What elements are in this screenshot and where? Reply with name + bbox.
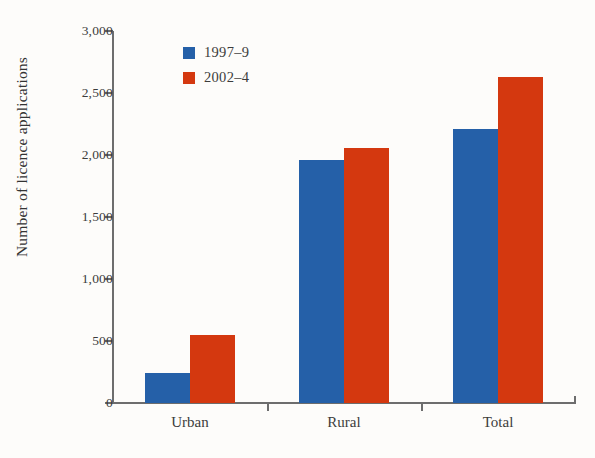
legend-swatch-icon bbox=[183, 72, 195, 84]
bar-urban-1997-9 bbox=[145, 373, 190, 403]
y-axis-tick-label: 2,500 bbox=[51, 85, 113, 101]
y-axis-tick-label: 500 bbox=[51, 333, 113, 349]
legend-item: 1997–9 bbox=[183, 40, 249, 65]
x-axis-label-rural: Rural bbox=[274, 414, 414, 431]
x-axis-label-total: Total bbox=[428, 414, 568, 431]
y-axis-tick-label: 3,000 bbox=[51, 23, 113, 39]
y-axis-tick-label: 1,500 bbox=[51, 209, 113, 225]
legend-label: 2002–4 bbox=[204, 69, 249, 86]
y-axis-title: Number of licence applications bbox=[13, 0, 31, 357]
bar-rural-1997-9 bbox=[299, 160, 344, 403]
bar-total-1997-9 bbox=[453, 129, 498, 403]
legend-label: 1997–9 bbox=[204, 44, 249, 61]
bar-rural-2002-4 bbox=[344, 148, 389, 403]
y-axis-tick-label: 1,000 bbox=[51, 271, 113, 287]
chart-legend: 1997–92002–4 bbox=[183, 40, 249, 90]
y-axis-tick-label: 2,000 bbox=[51, 147, 113, 163]
x-axis-label-urban: Urban bbox=[120, 414, 260, 431]
legend-swatch-icon bbox=[183, 47, 195, 59]
bar-total-2002-4 bbox=[498, 77, 543, 403]
bar-urban-2002-4 bbox=[190, 335, 235, 403]
y-axis-tick-label: 0 bbox=[51, 395, 113, 411]
bar-chart: Number of licence applications 05001,000… bbox=[0, 0, 595, 458]
x-axis-tick bbox=[267, 403, 269, 411]
x-axis-tick bbox=[421, 403, 423, 411]
legend-item: 2002–4 bbox=[183, 65, 249, 90]
